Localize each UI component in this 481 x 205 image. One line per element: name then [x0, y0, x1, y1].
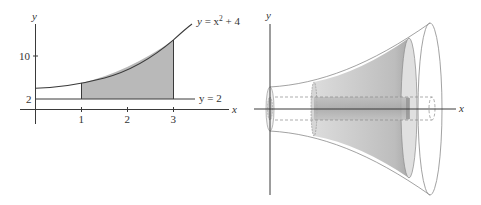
right-y-axis-label: y — [265, 9, 271, 21]
y-tick-label-2: 2 — [26, 93, 32, 105]
y-tick-label-10: 10 — [19, 50, 31, 62]
label-y-equals-2: y = 2 — [199, 92, 222, 104]
right-x-axis-label: x — [458, 102, 464, 114]
x-tick-label-3: 3 — [171, 113, 177, 125]
right-solid: y x — [254, 9, 464, 195]
x-tick-label-1: 1 — [79, 113, 85, 125]
x-axis-label: x — [231, 103, 237, 115]
left-plot: y x 10 2 1 2 3 y = 2 y = x2 + 4 — [19, 10, 241, 125]
x-tick-label-2: 2 — [125, 113, 131, 125]
y-axis-label: y — [31, 10, 37, 22]
label-parabola: y = x2 + 4 — [196, 14, 241, 27]
figure-canvas: y x 10 2 1 2 3 y = 2 y = x2 + 4 — [0, 0, 481, 205]
